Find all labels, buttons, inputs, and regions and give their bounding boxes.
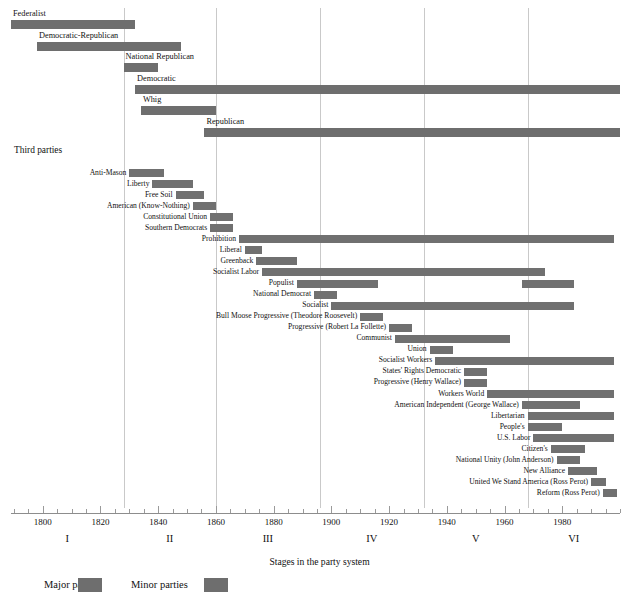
minor-party-label: New Alliance: [524, 467, 566, 475]
minor-party-label: Workers World: [438, 390, 484, 398]
axis-tick-minor: [404, 509, 405, 513]
axis-tick-major: [216, 506, 217, 513]
axis-tick-minor: [303, 509, 304, 513]
axis-tick-minor: [144, 509, 145, 513]
axis-tick-minor: [620, 509, 621, 513]
minor-party-bar: [430, 346, 453, 354]
axis-tick-minor: [115, 509, 116, 513]
axis-tick-minor: [86, 509, 87, 513]
minor-party-bar: [487, 390, 614, 398]
minor-party-label: Southern Democrats: [145, 224, 207, 232]
major-party-label: Whig: [143, 95, 161, 104]
minor-party-label: People's: [500, 423, 525, 431]
stage-boundary-gridline-1: [124, 8, 125, 508]
minor-party-bar: [245, 246, 262, 254]
minor-party-bar: [152, 180, 192, 188]
major-party-bar: [135, 85, 620, 94]
minor-party-bar: [210, 224, 233, 232]
axis-tick-label: 1960: [485, 517, 525, 527]
stage-label-III: III: [248, 533, 288, 544]
axis-tick-label: 1940: [427, 517, 467, 527]
axis-tick-label: 1860: [196, 517, 236, 527]
minor-party-bar: [360, 313, 383, 321]
axis-tick-major: [505, 506, 506, 513]
axis-tick-minor: [14, 509, 15, 513]
minor-party-label: Liberty: [127, 180, 149, 188]
axis-tick-minor: [230, 509, 231, 513]
axis-tick-minor: [187, 509, 188, 513]
minor-party-bar: [129, 169, 164, 177]
minor-party-bar: [510, 302, 573, 310]
axis-tick-major: [43, 506, 44, 513]
axis-tick-minor: [548, 509, 549, 513]
stage-boundary-gridline-3: [320, 8, 321, 508]
minor-party-label: Anti-Mason: [90, 169, 127, 177]
stage-label-V: V: [456, 533, 496, 544]
minor-party-bar: [464, 368, 487, 376]
major-party-label: Republican: [206, 117, 244, 126]
major-party-bar: [11, 20, 135, 29]
minor-party-label: Progressive (Robert La Follette): [288, 323, 386, 331]
minor-party-bar: [193, 202, 216, 210]
minor-party-label: Prohibition: [202, 235, 236, 243]
minor-party-label: States' Rights Democratic: [383, 367, 462, 375]
axis-tick-major: [562, 506, 563, 513]
axis-tick-major: [274, 506, 275, 513]
axis-tick-minor: [288, 509, 289, 513]
party-system-timeline-chart: FederalistDemocratic-RepublicanNational …: [0, 0, 639, 601]
axis-tick-label: 1800: [23, 517, 63, 527]
axis-tick-minor: [201, 509, 202, 513]
axis-tick-label: 1900: [311, 517, 351, 527]
minor-party-label: Populist: [269, 279, 294, 287]
minor-party-label: Socialist Labor: [213, 268, 259, 276]
axis-tick-minor: [533, 509, 534, 513]
minor-party-bar: [389, 324, 412, 332]
minor-party-bar: [603, 489, 617, 497]
axis-tick-major: [100, 506, 101, 513]
axis-tick-minor: [360, 509, 361, 513]
minor-party-label: United We Stand America (Ross Perot): [469, 478, 588, 486]
major-party-bar: [204, 128, 620, 137]
minor-party-label: Liberal: [220, 246, 242, 254]
major-party-bar: [37, 42, 181, 51]
stage-label-IV: IV: [352, 533, 392, 544]
minor-party-bar: [568, 467, 597, 475]
axis-tick-label: 1920: [369, 517, 409, 527]
major-party-label: Democratic-Republican: [39, 31, 118, 40]
minor-party-bar: [435, 357, 614, 365]
minor-party-bar: [591, 478, 605, 486]
stage-label-I: I: [47, 533, 87, 544]
minor-party-bar: [522, 280, 574, 288]
minor-party-bar: [239, 235, 614, 243]
minor-party-label: Libertarian: [491, 412, 525, 420]
axis-baseline: [11, 513, 620, 514]
axis-tick-minor: [577, 509, 578, 513]
axis-tick-minor: [72, 509, 73, 513]
stage-boundary-gridline-4: [424, 8, 425, 508]
axis-tick-minor: [461, 509, 462, 513]
minor-party-bar: [551, 445, 586, 453]
axis-tick-minor: [129, 509, 130, 513]
axis-tick-major: [158, 506, 159, 513]
minor-party-bar: [522, 401, 580, 409]
stage-label-VI: VI: [554, 533, 594, 544]
axis-tick-major: [389, 506, 390, 513]
minor-party-label: Socialist: [302, 301, 328, 309]
major-party-bar: [141, 106, 216, 115]
minor-party-label: Bull Moose Progressive (Theodore Rooseve…: [216, 312, 357, 320]
axis-tick-label: 1880: [254, 517, 294, 527]
minor-party-bar: [557, 456, 580, 464]
legend-swatch-minor: [204, 578, 228, 592]
axis-tick-minor: [519, 509, 520, 513]
minor-party-bar: [210, 213, 233, 221]
stage-boundary-gridline-2: [216, 8, 217, 508]
axis-tick-minor: [346, 509, 347, 513]
minor-party-label: American (Know-Nothing): [107, 202, 190, 210]
minor-party-label: National Democrat: [253, 290, 311, 298]
third-parties-heading: Third parties: [14, 145, 62, 155]
minor-party-bar: [464, 379, 487, 387]
minor-party-label: National Unity (John Anderson): [456, 456, 554, 464]
axis-tick-minor: [173, 509, 174, 513]
x-axis-title: Stages in the party system: [0, 556, 639, 567]
axis-tick-minor: [245, 509, 246, 513]
